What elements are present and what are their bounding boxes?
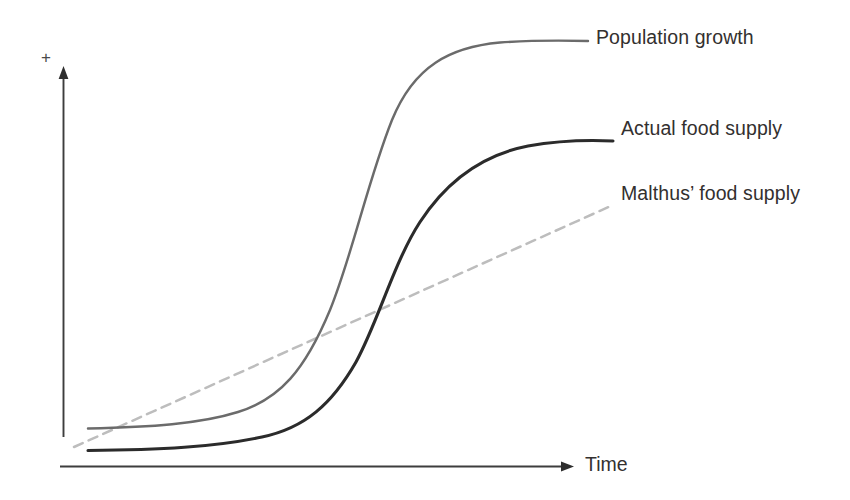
series-label-population-growth: Population growth [596,28,754,48]
x-axis-label-time: Time [585,455,628,475]
malthusian-growth-chart: + Population growth Actual food supply M… [0,0,850,500]
chart-canvas: + [0,0,850,500]
series-line-malthus-food-supply [74,205,613,447]
series-label-actual-food-supply: Actual food supply [621,119,782,139]
y-axis-arrowhead [59,66,69,79]
x-axis-arrowhead [561,462,574,472]
series-line-population-growth [88,41,588,429]
series-label-malthus-food-supply: Malthus’ food supply [621,184,800,204]
y-axis-plus-label: + [41,48,51,67]
